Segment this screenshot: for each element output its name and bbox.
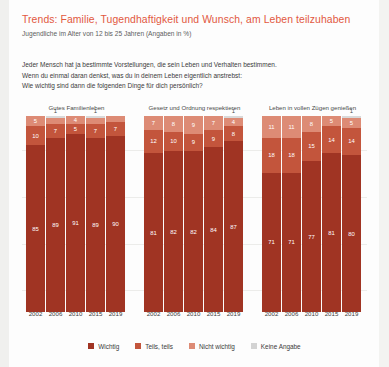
chart-segment-wichtig: 81	[144, 153, 163, 312]
x-axis-tick-label: 2010	[184, 310, 203, 317]
chart-bar[interactable]: 3789	[46, 116, 65, 312]
chart-outside-label-keine-angabe: 1	[342, 108, 361, 114]
chart-segment-nicht: 5	[26, 116, 45, 126]
chart-bar[interactable]: 81577	[302, 116, 321, 312]
question-line-2: Wenn du einmal daran denkst, was du in d…	[22, 71, 362, 82]
chart-segment-wichtig: 89	[86, 138, 105, 312]
legend-swatch-icon	[135, 343, 141, 349]
chart-x-axis: 20022006201020152019	[262, 310, 363, 324]
chart-group: Gesetz und Ordnung respektieren712818108…	[144, 104, 245, 319]
legend-item[interactable]: Nicht wichtig	[189, 343, 235, 350]
chart-segment-wichtig: 82	[164, 151, 183, 312]
chart-plot-area: Gutes Familienleben510851378945911378937…	[0, 104, 389, 319]
chart-segment-teils: 7	[86, 124, 105, 138]
chart-group-title: Gutes Familienleben	[26, 104, 127, 111]
chart-bar[interactable]: 81082	[164, 116, 183, 312]
chart-bar[interactable]: 51085	[26, 116, 45, 312]
chart-segment-wichtig: 89	[46, 138, 65, 312]
x-axis-tick-label: 2015	[204, 310, 223, 317]
legend-label: Teils, teils	[145, 343, 173, 350]
chart-segment-nicht: 4	[224, 118, 243, 126]
chart-bar[interactable]: 3789	[86, 116, 105, 312]
x-axis-tick-label: 2002	[144, 310, 163, 317]
x-axis-tick-label: 2006	[282, 310, 301, 317]
chart-segment-wichtig: 80	[342, 155, 361, 312]
legend-label: Wichtig	[98, 343, 119, 350]
chart-segment-wichtig: 84	[204, 147, 223, 312]
chart-bar[interactable]: 71281	[144, 116, 163, 312]
x-axis-tick-label: 2006	[46, 310, 65, 317]
chart-segment-nicht: 9	[184, 116, 203, 134]
chart-group-bars: 1118711118718157751481151480	[262, 116, 363, 312]
chart-segment-wichtig: 85	[26, 145, 45, 312]
legend-item[interactable]: Wichtig	[88, 343, 119, 350]
chart-segment-nicht: 7	[204, 116, 223, 130]
chart-segment-teils: 7	[106, 122, 125, 136]
legend-swatch-icon	[189, 343, 195, 349]
x-axis-tick-label: 2019	[106, 310, 125, 317]
chart-outside-label-keine-angabe: 1	[224, 108, 243, 114]
chart-bar[interactable]: 111871	[262, 116, 281, 312]
chart-group: Gutes Familienleben510851378945911378937…	[26, 104, 127, 319]
chart-segment-wichtig: 91	[66, 134, 85, 312]
chart-group-bars: 71281810829982798414887	[144, 116, 245, 312]
chart-segment-nicht: 8	[164, 116, 183, 132]
legend-label: Keine Angabe	[261, 343, 301, 350]
chart-segment-teils: 10	[26, 126, 45, 146]
question-line-1: Jeder Mensch hat ja bestimmte Vorstellun…	[22, 60, 362, 71]
chart-segment-wichtig: 71	[262, 173, 281, 312]
chart-segment-wichtig: 77	[302, 161, 321, 312]
chart-segment-nicht: 7	[144, 116, 163, 130]
page-title: Trends: Familie, Tugendhaftigkeit und Wu…	[22, 14, 350, 25]
chart-bar[interactable]: 4591	[66, 116, 85, 312]
chart-segment-teils: 8	[224, 126, 243, 142]
x-axis-tick-label: 2010	[66, 310, 85, 317]
chart-segment-nicht: 5	[342, 118, 361, 128]
x-axis-tick-label: 2006	[164, 310, 183, 317]
chart-bar[interactable]: 3790	[106, 116, 125, 312]
chart-group: Leben in vollen Zügen genießen1118711118…	[262, 104, 363, 319]
chart-bar[interactable]: 51480	[342, 116, 361, 312]
chart-segment-teils: 15	[302, 132, 321, 161]
chart-bar[interactable]: 7984	[204, 116, 223, 312]
chart-page: Trends: Familie, Tugendhaftigkeit und Wu…	[0, 0, 389, 367]
chart-segment-teils: 14	[322, 126, 341, 153]
chart-segment-nicht: 8	[302, 116, 321, 132]
chart-segment-nicht: 11	[282, 116, 301, 138]
legend-item[interactable]: Teils, teils	[135, 343, 173, 350]
chart-x-axis: 20022006201020152019	[144, 310, 245, 324]
chart-segment-teils: 5	[66, 124, 85, 134]
chart-bar[interactable]: 51481	[322, 116, 341, 312]
x-axis-tick-label: 2019	[342, 310, 361, 317]
page-subtitle: Jugendliche im Alter von 12 bis 25 Jahre…	[22, 30, 191, 37]
chart-bar[interactable]: 9982	[184, 116, 203, 312]
x-axis-tick-label: 2002	[26, 310, 45, 317]
x-axis-tick-label: 2002	[262, 310, 281, 317]
x-axis-tick-label: 2019	[224, 310, 243, 317]
chart-segment-teils: 18	[282, 138, 301, 173]
chart-segment-wichtig: 87	[224, 141, 243, 312]
chart-outside-label-keine-angabe: 1	[46, 108, 65, 114]
chart-segment-wichtig: 90	[106, 136, 125, 312]
chart-legend: WichtigTeils, teilsNicht wichtigKeine An…	[0, 338, 389, 354]
legend-label: Nicht wichtig	[199, 343, 235, 350]
chart-bar[interactable]: 4887	[224, 116, 243, 312]
x-axis-tick-label: 2015	[322, 310, 341, 317]
chart-segment-wichtig: 82	[184, 151, 203, 312]
legend-swatch-icon	[88, 343, 94, 349]
chart-segment-teils: 9	[184, 134, 203, 152]
legend-swatch-icon	[251, 343, 257, 349]
chart-segment-teils: 7	[46, 124, 65, 138]
chart-x-axis: 20022006201020152019	[26, 310, 127, 324]
x-axis-tick-label: 2010	[302, 310, 321, 317]
chart-segment-nicht: 5	[322, 116, 341, 126]
chart-bar[interactable]: 111871	[282, 116, 301, 312]
x-axis-tick-label: 2015	[86, 310, 105, 317]
chart-segment-teils: 14	[342, 128, 361, 155]
chart-segment-wichtig: 71	[282, 173, 301, 312]
question-text: Jeder Mensch hat ja bestimmte Vorstellun…	[22, 60, 362, 92]
legend-item[interactable]: Keine Angabe	[251, 343, 301, 350]
chart-segment-wichtig: 81	[322, 153, 341, 312]
chart-segment-nicht: 11	[262, 116, 281, 138]
chart-group-bars: 51085137894591137893790	[26, 116, 127, 312]
